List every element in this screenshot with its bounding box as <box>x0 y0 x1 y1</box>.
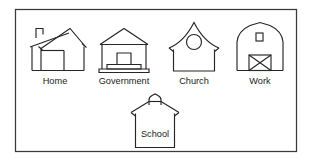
work-label: Work <box>249 76 271 86</box>
home-label: Home <box>43 76 68 86</box>
pictogram-canvas: Home Government <box>0 0 311 162</box>
government-label: Government <box>99 76 150 86</box>
church-label: Church <box>179 76 209 86</box>
building-pictogram-figure: Home Government <box>0 0 311 162</box>
school-label: School <box>141 129 169 139</box>
